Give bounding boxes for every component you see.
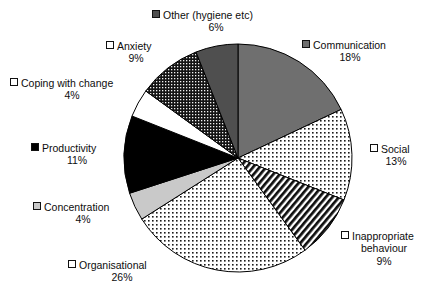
slice-label-other: Other (hygiene etc) 6%: [152, 8, 292, 34]
slice-label-communication-pct: 18%: [302, 51, 398, 64]
legend-swatch-anxiety-icon: [106, 41, 114, 49]
slice-label-other-text: Other (hygiene etc): [163, 9, 253, 22]
slice-label-productivity: Productivity 11%: [31, 141, 123, 167]
slice-label-social-text: Social: [381, 143, 410, 156]
slice-label-communication: Communication 18%: [302, 38, 398, 64]
slice-label-concentration-text: Concentration: [44, 201, 109, 214]
slice-label-inappropriate-behaviour-pct: 9%: [341, 255, 427, 268]
slice-label-concentration-pct: 4%: [33, 213, 133, 226]
slice-label-organisational: Organisational 26%: [68, 258, 176, 284]
slice-label-anxiety: Anxiety 9%: [106, 39, 166, 65]
slice-label-inappropriate-behaviour: Inappropriate behaviour 9%: [341, 229, 430, 267]
slice-label-other-pct: 6%: [152, 21, 280, 34]
legend-swatch-other-icon: [152, 10, 160, 18]
legend-swatch-concentration-icon: [33, 202, 41, 210]
slice-label-productivity-text: Productivity: [42, 142, 96, 155]
slice-label-communication-text: Communication: [313, 39, 386, 52]
legend-swatch-inappropriate-behaviour-icon: [341, 231, 349, 239]
slice-label-anxiety-text: Anxiety: [117, 40, 151, 53]
slice-label-concentration: Concentration 4%: [33, 200, 133, 226]
legend-swatch-communication-icon: [302, 40, 310, 48]
slice-label-inappropriate-behaviour-text2: behaviour: [341, 242, 427, 255]
slice-label-coping-with-change-pct: 4%: [10, 89, 134, 102]
slice-label-organisational-text: Organisational: [79, 259, 147, 272]
slice-label-anxiety-pct: 9%: [106, 52, 166, 65]
legend-swatch-organisational-icon: [68, 260, 76, 268]
legend-swatch-coping-with-change-icon: [10, 78, 18, 86]
slice-label-inappropriate-behaviour-text: Inappropriate: [352, 230, 414, 243]
slice-label-coping-with-change: Coping with change 4%: [10, 76, 134, 102]
pie-chart: Other (hygiene etc) 6% Communication 18%…: [0, 0, 430, 292]
legend-swatch-social-icon: [370, 144, 378, 152]
legend-swatch-productivity-icon: [31, 143, 39, 151]
pie-slices-group: [124, 44, 352, 272]
slice-label-productivity-pct: 11%: [31, 154, 123, 167]
slice-label-social-pct: 13%: [370, 155, 422, 168]
slice-label-coping-with-change-text: Coping with change: [21, 77, 113, 90]
slice-label-social: Social 13%: [370, 142, 422, 168]
slice-label-organisational-pct: 26%: [68, 271, 176, 284]
